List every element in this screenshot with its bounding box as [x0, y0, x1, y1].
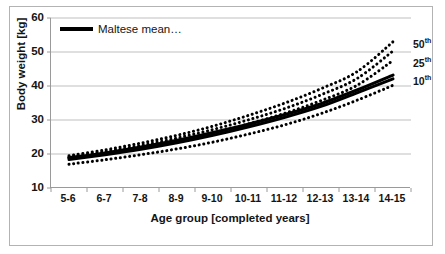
series-line	[69, 75, 393, 158]
percentile-label-10: 10th	[413, 74, 431, 86]
x-tick-label: 11-12	[266, 193, 302, 204]
x-tick-label: 9-10	[194, 193, 230, 204]
plot-area	[50, 18, 410, 188]
series-line	[69, 79, 393, 160]
chart-canvas	[51, 18, 411, 188]
x-tick-label: 14-15	[374, 193, 410, 204]
legend-label-mean: Maltese mean…	[98, 23, 182, 35]
x-tick-label: 13-14	[338, 193, 374, 204]
x-tick-label: 5-6	[50, 193, 86, 204]
x-tick-label: 10-11	[230, 193, 266, 204]
chart-figure: Body weight [kg] 102030405060 5-66-77-88…	[0, 0, 445, 254]
y-axis-title: Body weight [kg]	[15, 0, 27, 134]
x-tick-label: 7-8	[122, 193, 158, 204]
x-tick-label: 6-7	[86, 193, 122, 204]
percentile-label-25: 25th	[413, 56, 431, 68]
x-tick-label: 8-9	[158, 193, 194, 204]
x-tick-label: 12-13	[302, 193, 338, 204]
percentile-label-50: 50th	[413, 37, 431, 49]
legend-line-swatch	[60, 27, 93, 31]
series-line	[69, 61, 393, 159]
legend: Maltese mean…	[60, 23, 182, 35]
x-axis-title: Age group [completed years]	[50, 212, 410, 224]
